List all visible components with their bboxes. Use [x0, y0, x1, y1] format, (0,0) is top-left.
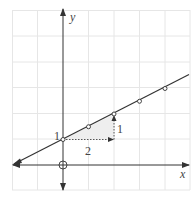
intercept-label: 1 — [54, 129, 60, 143]
run-label: 2 — [85, 144, 91, 158]
point — [138, 99, 142, 103]
line-arrow-left — [12, 159, 22, 166]
rise-label: 1 — [117, 122, 123, 136]
x-axis-label: x — [179, 167, 186, 181]
point — [61, 138, 65, 142]
y-axis-label: y — [69, 10, 76, 24]
grid — [12, 10, 190, 190]
coordinate-graph: y x 1 2 1 — [0, 0, 196, 198]
point — [112, 112, 116, 116]
point — [87, 125, 91, 129]
point — [163, 87, 167, 91]
